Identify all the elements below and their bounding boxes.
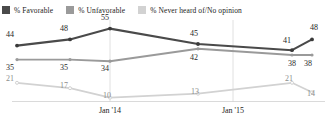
value-label-never-heard: 17 [60,82,68,90]
data-point-unfavorable [290,53,293,56]
x-tick-jan15: Jan '15 [222,106,244,115]
chart-root: % Favorable % Unfavorable % Never heard … [0,0,325,122]
x-axis: Jan '14 Jan '15 [0,103,325,122]
value-label-unfavorable: 42 [190,54,198,62]
data-point-unfavorable [196,47,199,50]
value-label-never-heard: 13 [191,88,199,96]
value-label-unfavorable: 38 [288,60,296,68]
value-label-favorable: 48 [310,24,318,32]
value-label-unfavorable: 35 [6,64,14,72]
value-label-favorable: 41 [283,37,291,45]
value-label-never-heard: 10 [103,92,111,100]
data-point-never-heard [69,87,72,90]
value-label-unfavorable: 34 [101,65,109,73]
data-point-favorable [290,48,294,52]
legend-swatch-unfavorable [66,6,74,14]
data-point-unfavorable [15,58,18,61]
value-label-favorable: 55 [101,14,109,22]
plot-area: 44 48 55 45 41 48 35 35 34 42 38 38 21 1… [0,20,325,102]
legend-label-favorable: % Favorable [14,6,53,15]
legend-item-favorable[interactable]: % Favorable [2,6,53,15]
value-label-unfavorable: 38 [304,60,312,68]
x-tick-jan14: Jan '14 [99,106,121,115]
value-label-never-heard: 21 [6,75,14,83]
data-point-unfavorable [310,53,313,56]
value-label-favorable: 48 [60,25,68,33]
legend-item-unfavorable[interactable]: % Unfavorable [66,6,125,15]
data-point-favorable [310,38,314,42]
value-label-never-heard: 14 [307,90,315,98]
data-point-unfavorable [68,58,71,61]
data-point-favorable [68,38,72,42]
value-label-favorable: 44 [6,31,14,39]
series-line-unfavorable [17,49,312,61]
chart-svg [0,20,325,102]
value-label-favorable: 45 [190,30,198,38]
data-point-favorable [15,44,19,48]
legend-swatch-never-heard [138,6,146,14]
legend-swatch-favorable [2,6,10,14]
data-point-favorable [108,27,112,31]
value-label-unfavorable: 35 [60,64,68,72]
data-point-unfavorable [108,60,111,63]
data-point-never-heard [16,81,19,84]
legend-item-never-heard[interactable]: % Never heard of/No opinion [138,6,242,15]
legend-label-never-heard: % Never heard of/No opinion [150,6,242,15]
chart-legend: % Favorable % Unfavorable % Never heard … [0,0,325,20]
data-point-favorable [196,42,200,46]
value-label-never-heard: 21 [285,75,293,83]
